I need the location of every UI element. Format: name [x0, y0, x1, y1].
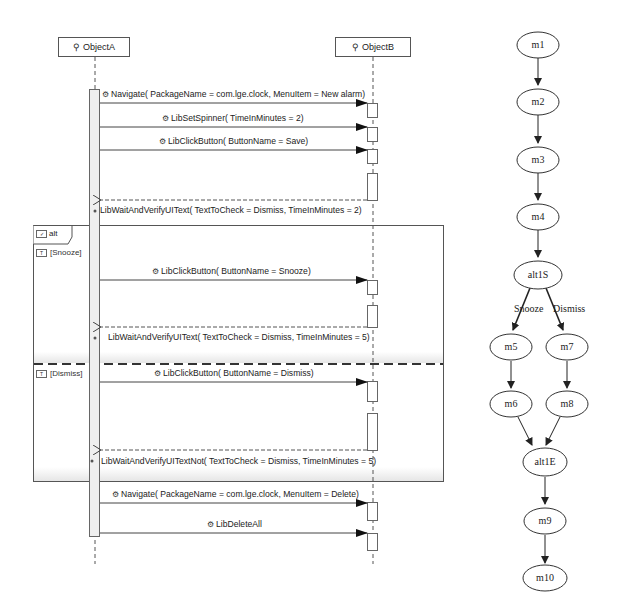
graph-node-m4: m4 — [518, 211, 558, 222]
message-navigate-delete[interactable]: ⚙ Navigate( PackageName = com.lge.clock,… — [112, 489, 359, 499]
graph-node-m2: m2 — [518, 96, 558, 107]
lifeline-header-objectb[interactable]: ⚲ ObjectB — [335, 37, 411, 57]
message-icon: ⚙ — [112, 490, 119, 499]
graph-node-m7: m7 — [547, 341, 587, 352]
graph-edge-label-snooze: Snooze — [514, 303, 543, 314]
guard-snooze: T [Snooze] — [36, 248, 82, 257]
message-lib-click-save[interactable]: ⚙ LibClickButton( ButtonName = Save) — [159, 136, 308, 146]
message-icon: ⚙ — [152, 267, 159, 276]
guard-dismiss: T [Dismiss] — [36, 369, 82, 378]
lifeline-name: ObjectB — [362, 42, 394, 52]
message-lib-click-snooze[interactable]: ⚙ LibClickButton( ButtonName = Snooze) — [152, 266, 311, 276]
graph-node-m8: m8 — [547, 398, 587, 409]
lifeline-header-objecta[interactable]: ⚲ ObjectA — [58, 37, 130, 57]
message-icon: ⚙ — [154, 369, 161, 378]
guard-icon: T — [36, 370, 47, 378]
graph-node-m10: m10 — [525, 572, 565, 583]
message-navigate-new-alarm[interactable]: ⚙ Navigate( PackageName = com.lge.clock,… — [102, 89, 365, 99]
lifeline-name: ObjectA — [83, 42, 115, 52]
alt-operator-label: ✓ alt — [36, 229, 57, 238]
return-message-verify-dismiss-2[interactable]: LibWaitAndVerifyUIText( TextToCheck = Di… — [100, 205, 362, 215]
graph-edge-label-dismiss: Dismiss — [553, 303, 585, 314]
message-lib-click-dismiss[interactable]: ⚙ LibClickButton( ButtonName = Dismiss) — [154, 368, 314, 378]
graph-node-m5: m5 — [491, 341, 531, 352]
graph-node-m9: m9 — [525, 515, 565, 526]
graph-node-m3: m3 — [518, 154, 558, 165]
graph-node-m6: m6 — [491, 398, 531, 409]
message-icon: ⚙ — [102, 90, 109, 99]
message-lib-set-spinner[interactable]: ⚙ LibSetSpinner( TimeInMinutes = 2) — [162, 113, 304, 123]
return-message-verify-not-dismiss-5[interactable]: LibWaitAndVerifyUITextNot( TextToCheck =… — [101, 456, 376, 466]
message-icon: ⚙ — [162, 114, 169, 123]
lifeline-icon: ⚲ — [352, 42, 359, 52]
return-message-verify-dismiss-5[interactable]: LibWaitAndVerifyUIText( TextToCheck = Di… — [108, 332, 370, 342]
activation-objecta — [90, 90, 100, 537]
lifeline-icon: ⚲ — [73, 42, 80, 52]
message-icon: ⚙ — [159, 137, 166, 146]
message-icon: ⚙ — [207, 520, 214, 529]
graph-node-alt1e: alt1E — [523, 456, 567, 467]
graph-node-alt1s: alt1S — [514, 269, 562, 280]
message-lib-delete-all[interactable]: ⚙ LibDeleteAll — [207, 519, 262, 529]
fragment-icon: ✓ — [36, 230, 47, 238]
guard-icon: T — [36, 249, 47, 257]
graph-node-m1: m1 — [518, 39, 558, 50]
